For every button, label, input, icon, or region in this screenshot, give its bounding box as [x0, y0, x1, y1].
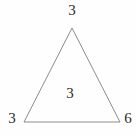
triangle-figure: 3 3 3 6	[0, 0, 136, 137]
bottom-left-label: 3	[4, 111, 20, 126]
triangle-shape	[0, 0, 136, 137]
bottom-right-label: 6	[120, 111, 136, 126]
interior-label: 3	[59, 86, 81, 101]
triangle-outline	[24, 28, 120, 122]
apex-label: 3	[62, 3, 82, 18]
